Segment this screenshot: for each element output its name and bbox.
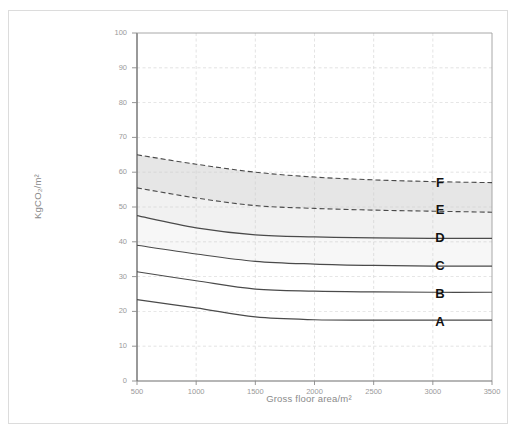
y-tick-label: 80 — [101, 98, 127, 107]
plot-canvas — [9, 11, 509, 425]
x-tick-label: 2500 — [354, 387, 394, 396]
band-label-d: D — [430, 230, 450, 245]
band-label-b: B — [430, 286, 450, 301]
y-tick-label: 40 — [101, 237, 127, 246]
figure-frame: KgCO₂/m² Gross floor area/m² 01020304050… — [8, 10, 508, 424]
y-tick-label: 90 — [101, 63, 127, 72]
x-tick-label: 3000 — [413, 387, 453, 396]
band-label-c: C — [430, 258, 450, 273]
x-tick-label: 1500 — [235, 387, 275, 396]
y-tick-label: 30 — [101, 272, 127, 281]
band-label-e: E — [430, 202, 450, 217]
band-label-a: A — [430, 314, 450, 329]
band-label-f: F — [430, 175, 450, 190]
y-tick-label: 10 — [101, 341, 127, 350]
x-tick-label: 2000 — [295, 387, 335, 396]
x-tick-label: 1000 — [176, 387, 216, 396]
y-tick-label: 20 — [101, 306, 127, 315]
y-axis-title: KgCO₂/m² — [32, 137, 43, 257]
y-tick-label: 100 — [101, 28, 127, 37]
y-tick-label: 70 — [101, 132, 127, 141]
y-tick-label: 50 — [101, 202, 127, 211]
y-tick-label: 60 — [101, 167, 127, 176]
chart-root: KgCO₂/m² Gross floor area/m² 01020304050… — [9, 11, 509, 425]
x-tick-label: 500 — [117, 387, 157, 396]
y-tick-label: 0 — [101, 376, 127, 385]
x-tick-label: 3500 — [472, 387, 512, 396]
